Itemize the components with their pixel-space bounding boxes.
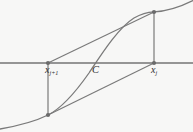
node-marker-upper-right [152,10,156,14]
lower-chord-line [48,63,154,115]
label-x-j-plus-1: xj+1 [45,65,58,76]
node-marker-lower-left [46,113,50,117]
figure-container: xj+1 C xj [0,0,193,132]
label-x-j: xj [151,65,157,76]
label-curve-c: C [92,65,99,76]
label-x-j-plus-1-subscript: j+1 [49,69,58,76]
label-x-j-subscript: j [155,69,157,76]
